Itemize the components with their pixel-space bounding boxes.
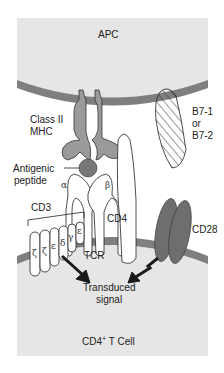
tcr-alpha-label: α <box>61 180 67 190</box>
cd3-chain-gamma: γ <box>68 232 73 242</box>
cd4-label: CD4 <box>107 213 127 224</box>
antigenic-peptide <box>79 159 97 177</box>
b7-label-line2: or <box>192 118 201 129</box>
signal-label-line1: Transduced <box>83 282 135 293</box>
b7-label-line1: B7-1 <box>192 106 213 117</box>
tcell-label-suffix: T Cell <box>106 336 135 347</box>
cd28-label: CD28 <box>192 224 218 235</box>
cd3-chain-zeta-2: ζ <box>42 246 47 256</box>
tcr-label: TCR <box>84 250 105 261</box>
tcr-beta-label: β <box>105 180 110 190</box>
signal-label-line2: signal <box>96 294 122 305</box>
mhc-label-line2: MHC <box>30 126 53 137</box>
b7-molecule <box>156 89 187 168</box>
cd3-chain-zeta-1: ζ <box>32 248 37 258</box>
cd3-bracket <box>28 212 84 226</box>
cd3-chain-delta: δ <box>60 238 65 248</box>
diagram-svg <box>0 0 224 373</box>
cd3-chain-epsilon-1: ε <box>51 241 56 251</box>
cd3-label: CD3 <box>31 202 51 213</box>
peptide-label-line2: peptide <box>14 175 47 186</box>
apc-label: APC <box>98 29 119 40</box>
b7-label-line3: B7-2 <box>192 130 213 141</box>
peptide-label-line1: Antigenic <box>13 163 54 174</box>
diagram-stage: APC Class II MHC B7-1 or B7-2 Antigenic … <box>0 0 224 373</box>
cd3-chain-epsilon-2: ε <box>77 226 82 236</box>
tcell-label: CD4+ T Cell <box>82 333 135 347</box>
mhc-label-line1: Class II <box>30 114 63 125</box>
tcell-label-prefix: CD4 <box>82 336 102 347</box>
